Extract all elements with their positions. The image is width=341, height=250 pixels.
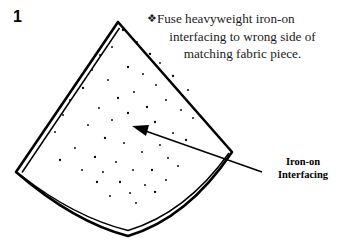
interfacing-dot (107, 79, 109, 81)
interfacing-dot (159, 144, 161, 146)
interfacing-dot (155, 84, 157, 86)
instruction-line-2: interfacing to wrong side of (144, 28, 341, 46)
interfacing-dot (102, 171, 104, 173)
interfacing-dot (165, 179, 167, 181)
interfacing-dot (111, 46, 113, 48)
interfacing-dot (136, 41, 138, 43)
interfacing-dot (82, 87, 84, 89)
interfacing-dot (141, 151, 143, 153)
instruction-line-1: ❖Fuse heavyweight iron-on (144, 10, 341, 28)
interfacing-dot (129, 192, 131, 194)
floret-bullet-icon: ❖ (147, 12, 157, 25)
interfacing-dot (192, 117, 194, 119)
interfacing-dot (144, 184, 146, 186)
interfacing-dot (111, 119, 113, 121)
interfacing-dot (98, 107, 100, 109)
interfacing-dot (151, 169, 153, 171)
interfacing-dot (167, 157, 169, 159)
callout-label-line-1: Iron-on (266, 155, 340, 168)
step-number: 1 (13, 8, 22, 26)
interfacing-dot (187, 89, 189, 91)
interfacing-dot (117, 97, 119, 99)
interfacing-dot (123, 142, 125, 144)
interfacing-dot (54, 131, 56, 133)
callout-label-line-2: Interfacing (266, 168, 340, 181)
interfacing-dot (142, 73, 144, 75)
interfacing-dot (172, 132, 174, 134)
instruction-line-3: matching fabric piece. (144, 45, 341, 63)
interfacing-dot (127, 66, 129, 68)
interfacing-dot (109, 195, 111, 197)
interfacing-dot (180, 109, 182, 111)
interfacing-dot (81, 169, 83, 171)
interfacing-dot (91, 69, 93, 71)
interfacing-dot (104, 137, 106, 139)
interfacing-dot (185, 139, 187, 141)
interfacing-dot (135, 202, 137, 204)
interfacing-dot (133, 91, 135, 93)
interfacing-dot (154, 191, 156, 193)
interfacing-dot (69, 99, 71, 101)
interfacing-dot (99, 54, 101, 56)
interfacing-dot (94, 156, 96, 158)
interfacing-dot (177, 165, 179, 167)
interfacing-dot (127, 112, 129, 114)
instruction-text: ❖Fuse heavyweight iron-on interfacing to… (144, 10, 341, 63)
interfacing-dot (87, 124, 89, 126)
instruction-line-1-text: Fuse heavyweight iron-on (157, 11, 295, 26)
interfacing-dot (172, 75, 174, 77)
interfacing-dot (154, 121, 156, 123)
interfacing-dot (122, 29, 124, 31)
callout-label: Iron-on Interfacing (266, 155, 340, 181)
interfacing-dot (96, 181, 98, 183)
interfacing-dot (115, 161, 117, 163)
diagram-page: 1 ❖Fuse heavyweight iron-on interfacing … (0, 0, 341, 250)
interfacing-dot (59, 159, 61, 161)
interfacing-dot (74, 147, 76, 149)
interfacing-dot (132, 169, 134, 171)
interfacing-dot (62, 114, 64, 116)
interfacing-dot (146, 106, 148, 108)
interfacing-dot (165, 99, 167, 101)
interfacing-dot (119, 181, 121, 183)
